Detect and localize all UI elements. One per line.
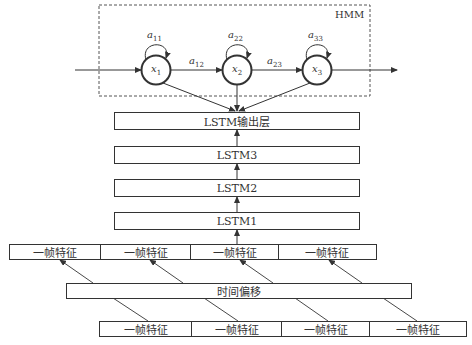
self-transition-label-11: a11 — [147, 29, 162, 43]
frame-feature-cell: 一帧特征 — [191, 245, 279, 259]
hmm-label: HMM — [335, 9, 364, 20]
state-label-2: x2 — [232, 63, 242, 77]
frame-feature-cell: 一帧特征 — [279, 245, 375, 259]
frame-feature-cell: 一帧特征 — [282, 322, 370, 336]
shift-to-frame-top-1 — [60, 260, 93, 283]
state1-to-output-arrow — [163, 83, 235, 111]
frame-feature-cell: 一帧特征 — [192, 322, 282, 336]
transition-label-12: a12 — [189, 55, 204, 69]
lstm-layer-1: LSTM1 — [114, 212, 360, 230]
frame-bottom-to-shift-2 — [204, 298, 238, 321]
frame-features-bottom-row: 一帧特征 一帧特征 一帧特征 一帧特征 — [99, 321, 467, 337]
frame-feature-cell: 一帧特征 — [101, 245, 191, 259]
frame-features-top-row: 一帧特征 一帧特征 一帧特征 一帧特征 — [9, 244, 377, 260]
state-label-3: x3 — [312, 63, 322, 77]
transition-label-23: a23 — [267, 55, 282, 69]
frame-feature-cell: 一帧特征 — [370, 322, 465, 336]
frame-feature-cell: 一帧特征 — [10, 245, 101, 259]
frame-bottom-to-shift-3 — [295, 298, 328, 321]
lstm-layer-3: LSTM3 — [114, 146, 360, 164]
time-shift-box: 时间偏移 — [66, 283, 412, 299]
frame-bottom-to-shift-4 — [383, 298, 417, 321]
frame-bottom-to-shift-1 — [113, 298, 148, 321]
self-transition-label-22: a22 — [228, 29, 243, 43]
lstm-layer-2: LSTM2 — [114, 179, 360, 197]
shift-to-frame-top-4 — [329, 260, 362, 283]
state-label-1: x1 — [151, 63, 161, 77]
lstm-output-layer: LSTM输出层 — [114, 112, 360, 130]
shift-to-frame-top-3 — [240, 260, 273, 283]
shift-to-frame-top-2 — [150, 260, 183, 283]
self-transition-label-33: a33 — [308, 29, 323, 43]
state3-to-output-arrow — [239, 83, 310, 111]
frame-feature-cell: 一帧特征 — [100, 322, 192, 336]
